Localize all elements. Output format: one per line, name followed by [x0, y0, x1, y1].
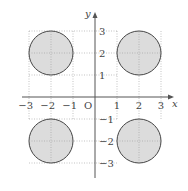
y-tick-label: −2: [99, 136, 114, 147]
x-tick-label: 1: [114, 100, 120, 111]
y-tick-label: 3: [99, 26, 105, 37]
y-tick-label: 1: [99, 70, 105, 81]
origin-label: O: [84, 100, 92, 111]
shaded-circle: [117, 31, 161, 75]
y-tick-label: −3: [99, 158, 114, 169]
y-tick-label: −1: [99, 114, 114, 125]
coordinate-plane: −3−2−1123321−1−2−3 x y O: [0, 0, 188, 191]
y-tick-label: 2: [99, 48, 105, 59]
x-tick-label: 2: [136, 100, 142, 111]
x-axis-label: x: [172, 98, 178, 109]
y-axis-arrow-icon: [93, 12, 98, 18]
x-tick-label: −2: [40, 100, 55, 111]
shaded-circle: [29, 119, 73, 163]
x-tick-label: 3: [158, 100, 164, 111]
y-axis-label: y: [84, 8, 91, 19]
shaded-circle: [117, 119, 161, 163]
shaded-circle: [29, 31, 73, 75]
x-tick-label: −3: [18, 100, 33, 111]
x-tick-label: −1: [62, 100, 77, 111]
